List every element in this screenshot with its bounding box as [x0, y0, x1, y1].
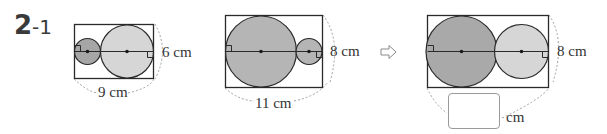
figure-2-height-label: 8 cm [330, 44, 360, 59]
large-circle-center [125, 50, 129, 54]
small-circle-center [520, 50, 524, 54]
figure-2-width-label: 11 cm [255, 96, 292, 111]
figure-1 [74, 24, 163, 93]
hollow-right-arrow-icon [381, 46, 396, 59]
small-circle-center [86, 50, 90, 54]
large-circle-center [460, 50, 464, 54]
figure-3-height-label: 8 cm [557, 44, 587, 59]
answer-unit-label: cm [506, 110, 524, 125]
figure-2 [225, 15, 335, 101]
small-circle-center [307, 50, 311, 54]
large-circle-center [259, 50, 263, 54]
figure-1-height-label: 6 cm [162, 45, 192, 60]
figure-1-width-label: 9 cm [98, 85, 128, 100]
answer-input-box[interactable] [448, 93, 500, 129]
